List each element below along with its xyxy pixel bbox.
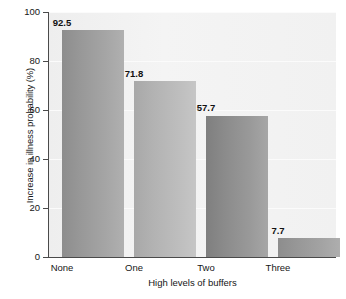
y-tick-label-100: 100: [10, 7, 40, 17]
gridline-100: [49, 12, 336, 13]
bar-three-fill: [278, 238, 340, 257]
x-tick-label-one: One: [99, 262, 169, 273]
x-tick-label-two: Two: [171, 262, 241, 273]
bar-three[interactable]: [278, 238, 340, 257]
bar-none-fill: [62, 30, 124, 257]
x-axis-title: High levels of buffers: [49, 277, 336, 288]
y-tick-mark-40: [43, 159, 49, 160]
x-tick-label-three: Three: [243, 262, 313, 273]
y-tick-mark-80: [43, 61, 49, 62]
bar-value-label-three: 7.7: [243, 225, 313, 236]
y-tick-mark-20: [43, 208, 49, 209]
y-axis-line: [48, 12, 49, 258]
y-tick-label-40: 40: [10, 154, 40, 164]
bar-chart-figure: Increase in illness probability (%) 100 …: [0, 0, 346, 299]
y-tick-label-0: 0: [10, 252, 40, 262]
bar-value-label-none: 92.5: [27, 17, 97, 28]
bar-value-label-two: 57.7: [171, 102, 241, 113]
y-tick-label-20: 20: [10, 203, 40, 213]
y-tick-label-60: 60: [10, 105, 40, 115]
x-axis-line: [48, 257, 336, 258]
x-tick-label-none: None: [27, 262, 97, 273]
y-tick-mark-60: [43, 110, 49, 111]
bar-none[interactable]: [62, 30, 124, 257]
y-tick-mark-100: [43, 12, 49, 13]
plot-area: [49, 12, 336, 257]
bar-value-label-one: 71.8: [99, 68, 169, 79]
y-tick-mark-0: [43, 257, 49, 258]
y-tick-label-80: 80: [10, 56, 40, 66]
y-axis-tick-labels: 100 80 60 40 20 0: [8, 0, 40, 299]
